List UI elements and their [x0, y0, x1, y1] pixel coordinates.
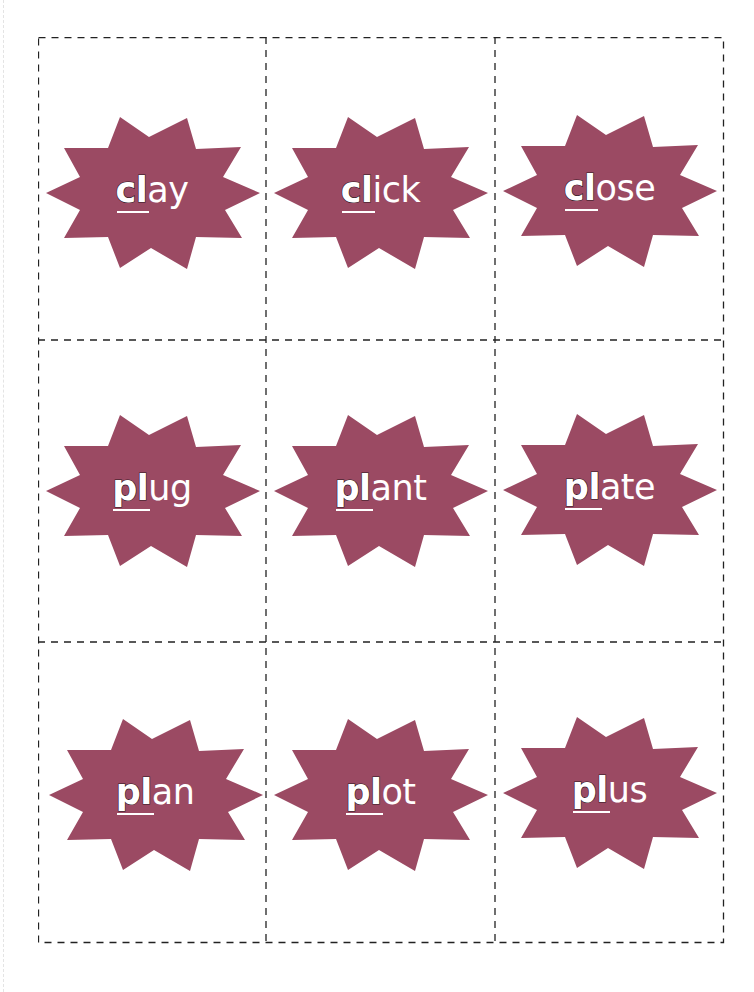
blend-letters: pl — [335, 468, 371, 508]
word-card-close[interactable]: close — [495, 37, 724, 340]
word-label: plug — [38, 468, 266, 508]
word-card-plant[interactable]: plant — [266, 340, 495, 642]
word-ending: ose — [596, 168, 656, 208]
word-label: clay — [38, 170, 266, 210]
word-ending: ate — [600, 467, 655, 507]
word-ending: ug — [148, 468, 191, 508]
word-ending: us — [608, 770, 647, 810]
word-ending: ay — [147, 170, 188, 210]
blend-letters: cl — [116, 170, 148, 210]
blend-letters: pl — [116, 772, 152, 812]
blend-letters: pl — [572, 770, 608, 810]
word-label: plate — [495, 467, 724, 507]
word-card-plug[interactable]: plug — [38, 340, 266, 642]
blend-letters: pl — [564, 467, 600, 507]
word-label: plus — [495, 770, 724, 810]
word-ending: ant — [371, 468, 427, 508]
blend-letters: cl — [341, 170, 373, 210]
word-ending: ot — [381, 772, 415, 812]
blend-letters: cl — [564, 168, 596, 208]
flashcard-grid: clay click close plug plant plate pl — [38, 37, 724, 943]
blend-letters: pl — [345, 772, 381, 812]
word-card-plot[interactable]: plot — [266, 642, 495, 943]
blend-letters: pl — [112, 468, 148, 508]
word-ending: ick — [373, 170, 421, 210]
word-ending: an — [152, 772, 195, 812]
word-label: close — [495, 168, 724, 208]
word-card-plan[interactable]: plan — [38, 642, 266, 943]
word-card-plus[interactable]: plus — [495, 642, 724, 943]
word-card-clay[interactable]: clay — [38, 37, 266, 340]
word-label: click — [266, 170, 495, 210]
word-label: plot — [266, 772, 495, 812]
word-card-click[interactable]: click — [266, 37, 495, 340]
page-edge-cut-line — [3, 0, 4, 992]
word-label: plant — [266, 468, 495, 508]
word-card-plate[interactable]: plate — [495, 340, 724, 642]
word-label: plan — [44, 772, 266, 812]
